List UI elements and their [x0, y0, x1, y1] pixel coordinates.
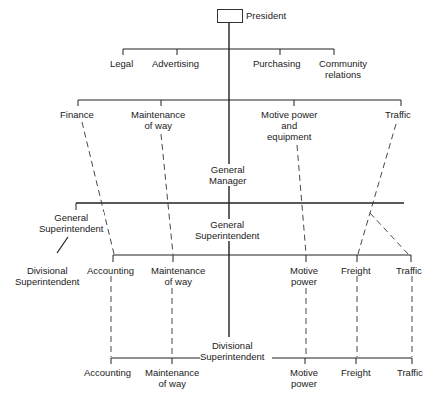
motive-ds-line2: power [290, 378, 318, 389]
motive-gs-line2: power [290, 276, 318, 287]
president-box [217, 9, 243, 23]
mow-ds-line1: Maintenance [145, 367, 199, 378]
accounting-gs-label: Accounting [87, 265, 134, 276]
general-superintendent-center-label: General Superintendent [194, 219, 260, 241]
motive-power-equipment-label: Motive power and equipment [261, 109, 318, 142]
finance-label: Finance [60, 109, 94, 120]
divisional-superintendent-label: Divisional Superintendent [200, 340, 264, 362]
ds-line1: Divisional [200, 340, 264, 351]
freight-gs-label: Freight [341, 265, 371, 276]
community-line1: Community [319, 58, 367, 69]
mow-line2: of way [131, 120, 185, 131]
legal-label: Legal [110, 58, 133, 69]
mow-gs-line2: of way [151, 276, 205, 287]
motive-ds-line1: Motive [290, 367, 318, 378]
gsl-line1: General [39, 212, 103, 223]
gm-line2: Manager [209, 175, 247, 186]
general-superintendent-left-label: General Superintendent [38, 212, 104, 234]
dsl-line2: Superintendent [15, 276, 79, 287]
freight-ds-label: Freight [341, 367, 371, 378]
community-relations-label: Community relations [319, 58, 367, 80]
mow-line1: Maintenance [131, 109, 185, 120]
mp-line2: and [261, 120, 318, 131]
maintenance-of-way-gs-label: Maintenance of way [151, 265, 205, 287]
president-label: President [246, 10, 286, 21]
traffic-gs-label: Traffic [396, 265, 422, 276]
community-line2: relations [319, 69, 367, 80]
gsc-line1: General [195, 219, 259, 230]
dsl-line1: Divisional [15, 265, 79, 276]
motive-power-gs-label: Motive power [290, 265, 318, 287]
general-manager-label: General Manager [208, 164, 248, 186]
motive-power-ds-label: Motive power [290, 367, 318, 389]
gsc-line2: Superintendent [195, 230, 259, 241]
gm-line1: General [209, 164, 247, 175]
mp-line1: Motive power [261, 109, 318, 120]
divisional-superintendent-left-label: Divisional Superintendent [15, 265, 79, 287]
traffic-hq-label: Traffic [385, 109, 411, 120]
ds-line2: Superintendent [200, 351, 264, 362]
advertising-label: Advertising [152, 58, 199, 69]
mp-line3: equipment [261, 131, 318, 142]
mow-ds-line2: of way [145, 378, 199, 389]
traffic-ds-label: Traffic [397, 367, 423, 378]
maintenance-of-way-hq-label: Maintenance of way [131, 109, 185, 131]
purchasing-label: Purchasing [253, 58, 301, 69]
accounting-ds-label: Accounting [84, 367, 131, 378]
mow-gs-line1: Maintenance [151, 265, 205, 276]
maintenance-of-way-ds-label: Maintenance of way [145, 367, 199, 389]
gsl-line2: Superintendent [39, 223, 103, 234]
motive-gs-line1: Motive [290, 265, 318, 276]
